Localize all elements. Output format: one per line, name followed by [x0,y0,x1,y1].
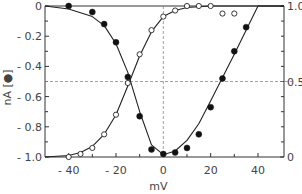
filled-data-point [184,145,190,151]
filled-data-point [113,39,119,45]
filled-data-point [101,21,107,27]
filled-data-point [66,3,72,9]
y-left-tick-label: - 0.4 [17,60,42,73]
open-data-point [196,3,201,8]
x-tick-label: 40 [251,164,265,177]
open-data-point [149,28,154,33]
filled-data-point [231,48,237,54]
y-left-tick-label: - 1.0 [17,151,42,164]
y-right-tick-label: 0.5 [287,76,302,89]
x-tick-label: 20 [204,164,218,177]
filled-data-point [160,151,166,157]
y-axis-left-label: nA [●] [1,69,14,105]
open-data-point [113,112,118,117]
open-data-point [78,151,83,156]
filled-data-point [148,146,154,152]
x-axis-label: mV [149,180,168,193]
open-data-point [220,11,225,16]
open-data-point [125,80,130,85]
y-left-tick-label: 0 [35,0,42,13]
y-left-tick-label: - 0.2 [17,30,42,43]
filled-data-point [137,113,143,119]
y-left-tick-label: - 0.8 [17,121,42,134]
filled-data-point [219,75,225,81]
iv-plot: - 40- 20020400- 0.2- 0.4- 0.6- 0.8- 1.00… [0,0,302,194]
open-data-point [90,145,95,150]
chart-area: - 40- 20020400- 0.2- 0.4- 0.6- 0.8- 1.00… [0,0,302,194]
filled-data-point [196,131,202,137]
open-data-point [137,52,142,57]
open-data-point [161,14,166,19]
open-data-point [66,154,71,159]
y-left-tick-label: - 0.6 [17,91,42,104]
open-data-point [173,8,178,13]
x-tick-label: - 40 [58,164,79,177]
y-right-tick-label: 1.0 [287,0,302,13]
axes: - 40- 20020400- 0.2- 0.4- 0.6- 0.8- 1.00… [17,0,302,177]
filled-data-point [172,149,178,155]
open-data-point [102,132,107,137]
filled-data-point [243,24,249,30]
filled-data-point [89,9,95,15]
open-data-point [208,3,213,8]
x-tick-label: - 20 [105,164,126,177]
x-tick-label: 0 [160,164,167,177]
open-data-point [232,11,237,16]
filled-data-point [208,104,214,110]
open-data-point [184,3,189,8]
y-right-tick-label: 0 [287,151,294,164]
reference-lines [45,6,292,157]
filled-data-point [125,74,131,80]
